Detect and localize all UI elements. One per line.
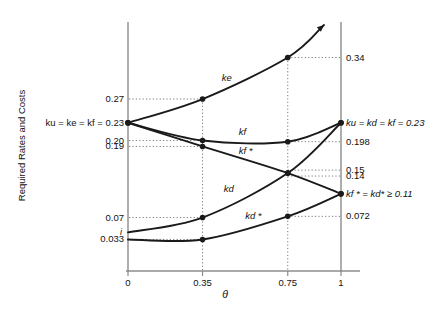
data-markers-layer: [125, 55, 344, 242]
marker-kd-star-2: [338, 191, 344, 197]
marker-kd-star-0: [200, 237, 206, 243]
left-axis-label-3: 0.19: [106, 141, 125, 151]
right-axis-label-6: 0.072: [346, 211, 370, 221]
right-axis-label-5: kf * = kd* ≥ 0.11: [346, 189, 413, 199]
right-axis-label-4: 0.14: [346, 171, 365, 181]
marker-kf-star-1: [200, 144, 206, 150]
left-axis-label-6: 0.033: [100, 234, 124, 244]
guide-lines-layer: [129, 58, 340, 271]
marker-ke-1: [200, 96, 206, 102]
curve-label-3: kd: [224, 184, 234, 194]
x-tick-label-2: 0.75: [268, 278, 308, 288]
marker-kf-star-0: [125, 120, 131, 126]
marker-kd-star-1: [285, 214, 291, 220]
curve-label-1: kf: [239, 127, 246, 137]
marker-kd-0: [200, 215, 206, 221]
chart-figure: Required Rates and Costs θ 00.350.751 0.…: [0, 0, 445, 312]
right-axis-label-2: 0.198: [346, 137, 370, 147]
chart-canvas: [0, 0, 445, 312]
marker-kf-2: [285, 139, 291, 145]
left-axis-label-4: 0.07: [106, 213, 125, 223]
curve-kf-star: [128, 123, 341, 194]
x-tick-label-3: 1: [321, 278, 361, 288]
right-axis-label-0: 0.34: [346, 53, 365, 63]
y-axis-title: Required Rates and Costs: [16, 66, 27, 226]
right-axis-label-1: ku = kd = kf = 0.23: [346, 118, 424, 128]
marker-ke-2: [285, 55, 291, 61]
x-tick-label-0: 0: [108, 278, 148, 288]
marker-kf-1: [200, 138, 206, 144]
x-axis-title: θ: [195, 288, 255, 300]
left-axis-label-0: 0.27: [106, 94, 125, 104]
marker-kd-2: [338, 120, 344, 126]
curve-label-4: kd *: [245, 211, 261, 221]
x-tick-label-1: 0.35: [183, 278, 223, 288]
marker-kd-1: [285, 170, 291, 176]
curve-label-0: ke: [222, 73, 232, 83]
curve-label-2: kf *: [239, 146, 253, 156]
left-axis-label-1: ku = ke = kf = 0.23: [46, 118, 124, 128]
